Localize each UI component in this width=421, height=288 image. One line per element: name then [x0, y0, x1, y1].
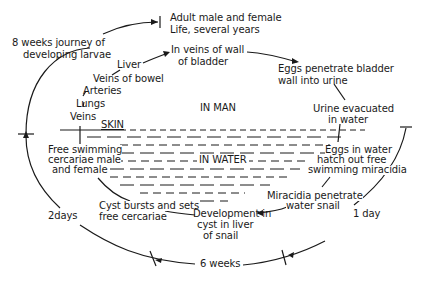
arrow-eggs-to-urine — [334, 84, 345, 100]
stage-urine-line1: Urine evacuated — [313, 104, 394, 114]
larval-path-lungs: Lungs — [76, 99, 105, 109]
duration-2days: 2days — [48, 211, 77, 221]
duration-6weeks: 6 weeks — [200, 259, 240, 269]
larval-path-veins-of-bowel: Veins of bowel — [93, 74, 164, 84]
stage-eggs-penetrate-line2: wall into urine — [278, 76, 348, 86]
cycle-arc-bottom-right — [243, 241, 325, 265]
stage-development-line1: Development in — [193, 209, 271, 219]
stage-journey-line2: developing larvae — [23, 50, 111, 60]
region-skin: SKIN — [101, 120, 124, 130]
stage-miracidia-line2: water snail — [286, 201, 340, 211]
larval-path-arteries: Arteries — [83, 86, 121, 96]
arrow-cercariae-to-cyst — [98, 178, 130, 201]
cycle-arc-journey — [103, 22, 158, 34]
stage-adult-line2: Life, several years — [170, 25, 260, 35]
region-in-water: IN WATER — [197, 155, 249, 165]
stage-development-line3: of snail — [203, 231, 238, 241]
stage-eggs-water-line3: swimming miracidia — [308, 165, 407, 175]
arrow-veins-to-eggs — [247, 52, 297, 62]
region-in-man: IN MAN — [200, 103, 236, 113]
larval-path-liver: Liver — [117, 60, 141, 70]
stage-cyst-bursts-line1: Cyst bursts and sets — [99, 201, 199, 211]
stage-urine-line2: in water — [328, 115, 368, 125]
stage-cyst-bursts-line2: free cercariae — [99, 212, 167, 222]
stage-journey-line1: 8 weeks journey of — [12, 38, 105, 48]
arrowhead-bottom-right — [288, 252, 294, 258]
arrow-eggs-to-miracidia — [322, 177, 330, 187]
larval-path-veins: Veins — [70, 112, 96, 122]
arrow-cyst-to-development — [165, 211, 195, 215]
stage-development-line2: cyst in liver — [197, 220, 253, 230]
stage-eggs-penetrate-line1: Eggs penetrate bladder — [278, 64, 394, 74]
stage-veins-bladder-line2: of bladder — [178, 57, 228, 67]
stage-cercariae-line3: and female — [52, 165, 107, 175]
stage-adult-line1: Adult male and female — [170, 13, 282, 23]
duration-1day: 1 day — [353, 209, 380, 219]
arrowhead-adult — [151, 19, 158, 25]
stage-veins-bladder-line1: In veins of wall — [171, 45, 244, 55]
urine-mark — [338, 124, 340, 142]
cycle-arc-bottom-left — [80, 225, 195, 264]
